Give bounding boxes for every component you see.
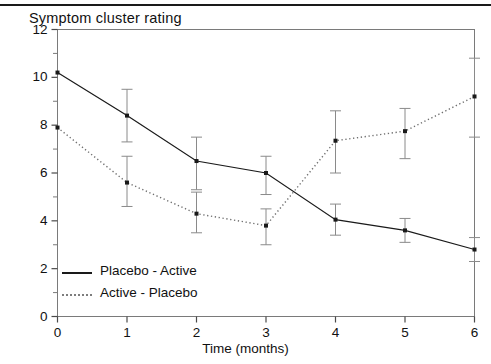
chart-legend: Placebo - Active Active - Placebo bbox=[62, 262, 230, 308]
x-axis-title: Time (months) bbox=[0, 341, 491, 356]
legend-swatch-solid-line bbox=[62, 272, 92, 274]
x-tick-label: 6 bbox=[463, 326, 487, 340]
x-tick-label: 2 bbox=[185, 326, 209, 340]
x-axis-tick-labels: 0123456 bbox=[0, 0, 491, 364]
legend-label: Active - Placebo bbox=[100, 285, 198, 300]
legend-item-placebo-active: Placebo - Active bbox=[62, 262, 230, 284]
x-tick-label: 4 bbox=[324, 326, 348, 340]
x-tick-label: 1 bbox=[115, 326, 139, 340]
legend-item-active-placebo: Active - Placebo bbox=[62, 284, 230, 306]
chart-figure: Symptom cluster rating 024681012 0123456… bbox=[0, 0, 491, 364]
legend-label: Placebo - Active bbox=[100, 263, 197, 278]
legend-swatch-dotted-line bbox=[62, 294, 92, 296]
x-tick-label: 3 bbox=[254, 326, 278, 340]
x-tick-label: 0 bbox=[46, 326, 70, 340]
x-tick-label: 5 bbox=[393, 326, 417, 340]
